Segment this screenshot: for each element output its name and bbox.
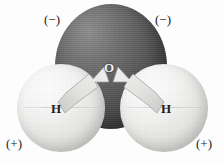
charge-label-positive-bottom-right: (+): [196, 136, 212, 152]
atom-label-hydrogen-left: H: [51, 101, 61, 117]
atom-label-hydrogen-right: H: [161, 101, 171, 117]
charge-label-negative-top-left: (−): [44, 12, 60, 28]
charge-label-positive-bottom-left: (+): [6, 136, 22, 152]
water-molecule-figure: O H H (−) (−) (+) (+): [0, 0, 224, 163]
charge-label-negative-top-right: (−): [155, 12, 171, 28]
atom-label-oxygen: O: [104, 60, 114, 76]
